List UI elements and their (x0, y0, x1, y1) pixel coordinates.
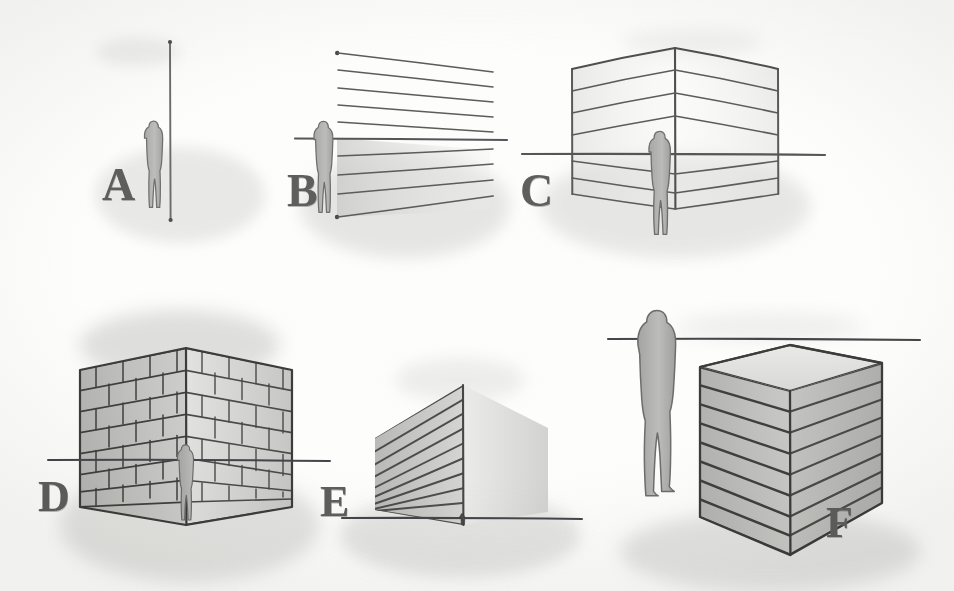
measure-line-bottom-point (169, 218, 173, 222)
block-face-right-tone (463, 385, 548, 525)
panel-f: F (590, 305, 930, 585)
panel-d: D (30, 300, 340, 585)
panel-label-d: D (38, 475, 70, 519)
panel-label-a: A (102, 162, 135, 208)
pencil-smudge-top (96, 38, 180, 66)
perspective-plate: A (0, 0, 954, 591)
panel-label-e: E (320, 480, 349, 524)
measure-line-top-point (168, 40, 172, 44)
panel-e: E (320, 340, 610, 580)
horizon-line (522, 154, 825, 155)
panel-c: C (510, 6, 840, 261)
pencil-smudge-top (675, 313, 865, 341)
human-figure (638, 311, 676, 496)
panel-label-c: C (520, 168, 553, 214)
vertical-measure-line (170, 42, 171, 220)
panel-label-f: F (826, 501, 853, 545)
panel-label-b: B (287, 168, 318, 214)
wall-courses-above-horizon (338, 53, 493, 132)
